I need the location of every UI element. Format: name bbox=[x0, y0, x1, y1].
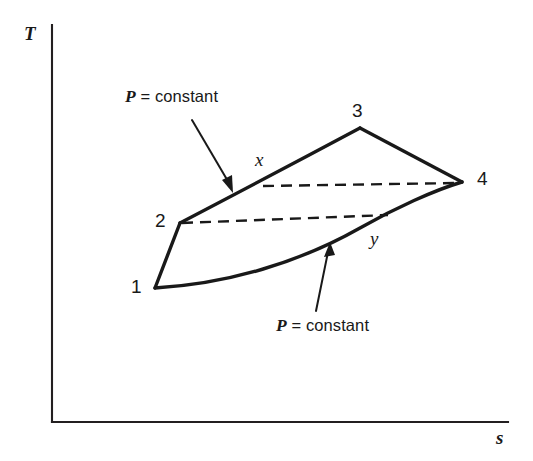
ts-diagram-figure: T s 1 2 3 4 x y P = constant P = constan… bbox=[0, 0, 533, 461]
process-path-1-2 bbox=[155, 223, 180, 288]
x-axis-label: s bbox=[496, 428, 503, 447]
pressure-text-lower: = constant bbox=[287, 316, 369, 334]
lower-pressure-constant-label: P = constant bbox=[276, 317, 369, 335]
pressure-symbol-upper: P bbox=[125, 86, 136, 106]
state-label-2: 2 bbox=[155, 211, 166, 230]
process-path-2-x-3 bbox=[180, 128, 360, 223]
upper-pressure-constant-label: P = constant bbox=[125, 88, 218, 106]
state-label-4: 4 bbox=[477, 169, 488, 188]
dashed-path-x-4 bbox=[263, 183, 458, 186]
state-label-1: 1 bbox=[131, 277, 142, 296]
y-axis-label: T bbox=[24, 24, 36, 43]
pressure-symbol-lower: P bbox=[276, 315, 287, 335]
ts-diagram-canvas bbox=[0, 0, 533, 461]
process-path-3-4 bbox=[360, 128, 462, 182]
upper-pressure-arrow bbox=[192, 120, 233, 193]
state-label-3: 3 bbox=[352, 101, 363, 120]
state-label-x: x bbox=[255, 150, 263, 169]
pressure-text-upper: = constant bbox=[136, 87, 218, 105]
dashed-path-2-y bbox=[182, 215, 388, 223]
lower-pressure-arrow bbox=[316, 242, 335, 311]
process-path-1-y-4 bbox=[155, 182, 462, 288]
state-label-y: y bbox=[370, 229, 378, 248]
